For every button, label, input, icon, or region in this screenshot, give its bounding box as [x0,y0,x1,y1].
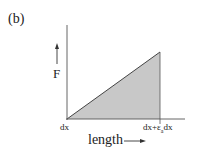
x-axis-label: length [88,132,123,148]
x-tick-label-end: dx+εadx [143,122,173,134]
x-tick-label-end-main: dx+ε [143,122,161,132]
x-tick-label-end-tail: dx [164,122,173,132]
x-tick-label-start: dx [60,122,69,132]
y-axis-label: F [53,66,60,82]
panel-label: (b) [8,11,24,27]
right-arrow-icon [124,139,146,143]
up-arrow-icon [55,43,59,64]
